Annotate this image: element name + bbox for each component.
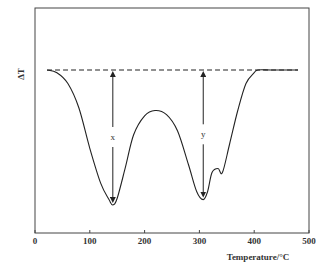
x-tick-label: 300 <box>193 236 207 246</box>
y-axis-label: ΔT <box>16 68 26 80</box>
annotation-y: y <box>201 129 206 139</box>
annotation-x: x <box>111 132 116 142</box>
x-tick-label: 200 <box>138 236 152 246</box>
x-tick-label: 500 <box>302 236 316 246</box>
x-tick-label: 100 <box>83 236 97 246</box>
x-tick-label: 0 <box>33 236 38 246</box>
x-axis-label: Temperature/°C <box>227 252 290 262</box>
dta-chart: 0100200300400500 ΔT Temperature/°C x y <box>0 0 333 267</box>
x-tick-label: 400 <box>247 236 261 246</box>
x-axis-tick-labels: 0100200300400500 <box>33 236 317 246</box>
dta-curve <box>47 70 298 205</box>
